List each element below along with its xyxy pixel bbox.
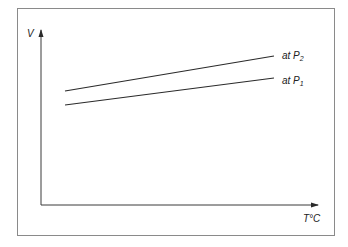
series-line-p1 (65, 78, 274, 105)
x-axis-label: T°C (303, 213, 321, 224)
series-label-p1: at P1 (282, 75, 304, 87)
series-line-p2 (65, 56, 274, 91)
chart-svg: V T°C at P2 at P1 (0, 0, 348, 247)
series-label-p2: at P2 (282, 50, 304, 62)
y-axis-label: V (27, 28, 35, 39)
